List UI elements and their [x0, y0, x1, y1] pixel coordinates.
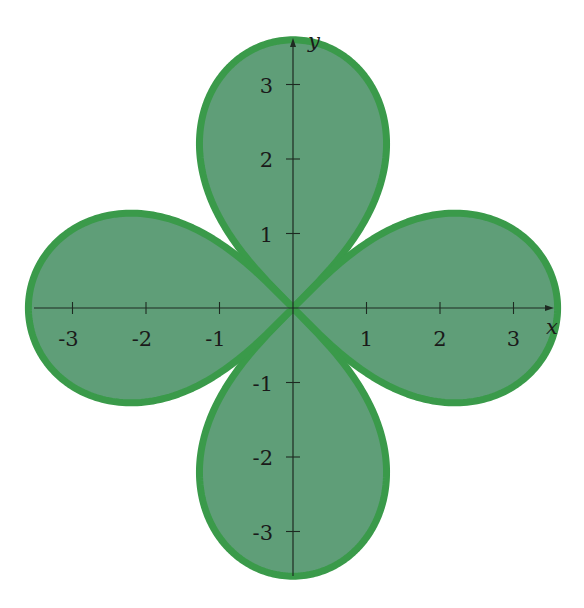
y-tick-label: -1	[253, 372, 273, 396]
x-tick-label: -2	[132, 327, 152, 351]
y-axis-label: y	[307, 29, 321, 53]
y-tick-label: 3	[260, 74, 273, 98]
x-tick-label: -1	[205, 327, 225, 351]
x-axis-label: x	[546, 315, 558, 339]
x-tick-label: 1	[360, 327, 373, 351]
y-tick-label: 2	[260, 148, 273, 172]
y-tick-label: -2	[253, 446, 273, 470]
x-tick-label: 3	[507, 327, 520, 351]
polar-leaf-plot: -3-2-1123 321-1-2-3 x y	[0, 0, 584, 608]
x-tick-label: 2	[433, 327, 446, 351]
x-tick-label: -3	[58, 327, 78, 351]
y-tick-label: -3	[253, 521, 273, 545]
y-tick-label: 1	[260, 223, 273, 247]
